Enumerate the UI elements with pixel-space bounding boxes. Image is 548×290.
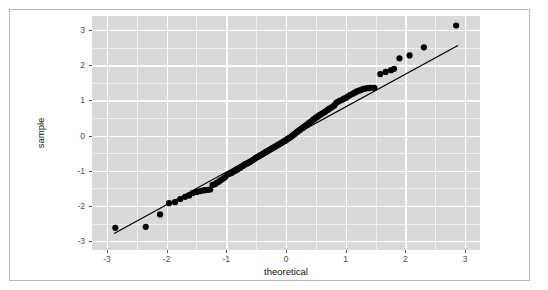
y-axis-tick-label: -2 [77,201,85,211]
data-point [406,52,412,58]
x-axis-tick-label: 3 [463,254,468,264]
x-axis-tick-mark [465,250,466,253]
y-axis-tick-label: 0 [80,131,85,141]
x-axis-tick-mark [226,250,227,253]
x-axis-tick-label: 1 [343,254,348,264]
data-point [371,85,377,91]
x-axis-tick-mark [107,250,108,253]
data-point [172,199,178,205]
y-axis-title: sample [35,118,46,149]
y-axis-tick-label: -3 [77,236,85,246]
y-axis-tick-mark [89,206,92,207]
x-axis-tick-mark [346,250,347,253]
y-axis-tick-mark [89,171,92,172]
y-axis-tick-mark [89,241,92,242]
y-axis-tick-label: -1 [77,166,85,176]
data-point [166,200,172,206]
x-axis-tick-label: 2 [403,254,408,264]
x-axis-tick-mark [167,250,168,253]
data-point [112,225,118,231]
data-point [383,69,389,75]
x-axis-tick-mark [286,250,287,253]
data-point [143,224,149,230]
x-axis-title: theoretical [264,266,308,277]
plot-data-layer [92,16,480,250]
y-axis-tick-mark [89,30,92,31]
data-point [377,71,383,77]
y-axis-tick-mark [89,136,92,137]
data-point [396,55,402,61]
y-axis-tick-label: 2 [80,60,85,70]
y-axis-tick-mark [89,100,92,101]
data-point [391,66,397,72]
qq-plot-figure: -3-2-10123-3-2-10123 theoretical sample [0,0,548,290]
y-axis-tick-label: 3 [80,25,85,35]
x-axis-tick-label: -2 [163,254,171,264]
data-point [453,22,459,28]
qq-points-group [112,22,459,231]
data-point [157,211,163,217]
data-point [421,44,427,50]
x-axis-tick-label: -1 [223,254,231,264]
y-axis-tick-label: 1 [80,95,85,105]
x-axis-tick-mark [405,250,406,253]
x-axis-tick-label: -3 [103,254,111,264]
plot-panel [92,16,480,250]
x-axis-tick-label: 0 [284,254,289,264]
y-axis-tick-mark [89,65,92,66]
